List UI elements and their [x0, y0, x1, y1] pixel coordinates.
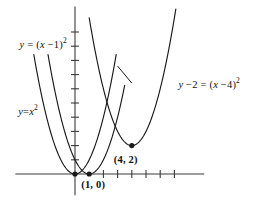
curve-label-y-minus-2-equals-x-minus-4-squared: y −2 = (x −4)2: [178, 77, 240, 90]
curve-c-label-rest: −4): [218, 79, 236, 90]
curve-c-label-exponent: 2: [236, 76, 240, 85]
vertex-marker-1: [72, 171, 77, 176]
parabola-figure: y = (x −1)2 y=x2 y −2 = (x −4)2 (4, 2) (…: [0, 0, 258, 201]
vertex-marker-2: [87, 171, 92, 176]
figure-canvas: [0, 0, 258, 201]
curve-c-label-middle: −2 = (: [183, 79, 213, 90]
curve-b-label-rest: −1): [45, 39, 63, 50]
label-leader-line: [118, 66, 132, 83]
curve-b-label-equals: = (: [24, 39, 39, 50]
curve-b-label-exponent: 2: [63, 36, 67, 45]
point-label-1-0: (1, 0): [81, 180, 105, 191]
vertex-marker-3: [129, 143, 134, 148]
curves-group: [34, 9, 176, 174]
curve-label-y-equals-x-squared: y=x2: [18, 104, 38, 117]
axes-group: [15, 6, 204, 195]
curve-a-label-exponent: 2: [34, 103, 38, 112]
curve-label-y-equals-x-minus-1-squared: y = (x −1)2: [20, 37, 67, 50]
parabola-curve-3: [89, 9, 176, 145]
leader-line-group: [118, 66, 132, 83]
point-label-4-2: (4, 2): [114, 155, 138, 166]
